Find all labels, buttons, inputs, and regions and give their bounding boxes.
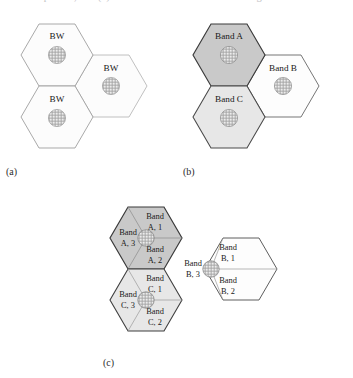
sector-c-3-line2: C, 3 xyxy=(121,301,135,310)
base-station-icon xyxy=(220,109,237,126)
sector-b-3-label: Band B, 3 xyxy=(184,259,202,279)
panel-label-b: (b) xyxy=(183,166,195,177)
sector-b-3-line1: Band xyxy=(184,259,202,268)
sector-a-2-line1: Band xyxy=(146,245,164,254)
panel-label-c: (c) xyxy=(103,357,114,368)
base-station-icon xyxy=(48,46,65,63)
band-c-label: Band C xyxy=(215,94,243,104)
sector-b-2-line1: Band xyxy=(219,276,237,285)
sector-b-1-line1: Band xyxy=(219,243,237,252)
base-station-icon xyxy=(203,261,219,277)
band-b-label: Band B xyxy=(269,63,297,73)
figure-root: reuse pattern, and (c) a sectored three-… xyxy=(0,0,353,378)
base-station-icon xyxy=(48,109,65,126)
base-station-icon xyxy=(102,77,119,94)
bw-label-right: BW xyxy=(104,63,119,73)
panel-a-group: BW BW BW xyxy=(21,24,147,148)
panel-b-group: Band A Band C Band B xyxy=(193,24,319,148)
base-station-icon xyxy=(138,292,154,308)
bw-label-top-left: BW xyxy=(50,31,65,41)
sector-b-3-line2: B, 3 xyxy=(186,270,200,279)
sector-b-2-line2: B, 2 xyxy=(221,287,235,296)
sector-c-1-line1: Band xyxy=(146,274,164,283)
sector-c-2-line2: C, 2 xyxy=(148,318,162,327)
sector-a-1-line1: Band xyxy=(146,212,164,221)
sector-c-2-line1: Band xyxy=(146,307,164,316)
sector-c-3-line1: Band xyxy=(119,290,137,299)
panel-c-group: Band A, 1 Band A, 2 Band A, 3 Band B, 1 … xyxy=(110,207,277,331)
base-station-icon xyxy=(274,77,291,94)
base-station-icon xyxy=(138,230,154,246)
sector-a-3-line2: A, 3 xyxy=(121,239,135,248)
panel-label-a: (a) xyxy=(6,166,17,177)
hexagon-diagram-svg: BW BW BW Band A Band C Band B xyxy=(0,0,353,378)
sector-b-1-line2: B, 1 xyxy=(221,254,235,263)
band-a-label: Band A xyxy=(215,31,243,41)
bw-label-bottom-left: BW xyxy=(50,94,65,104)
base-station-icon xyxy=(220,46,237,63)
sector-a-2-line2: A, 2 xyxy=(148,256,162,265)
sector-a-3-line1: Band xyxy=(119,228,137,237)
